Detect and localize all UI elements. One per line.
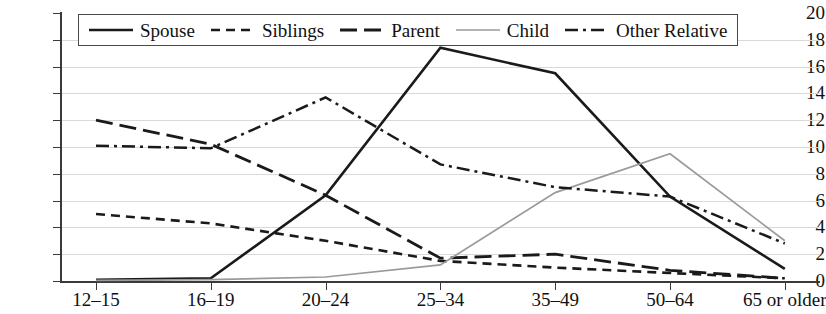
solid-line-swatch-icon: [89, 24, 133, 36]
dotted-line-swatch-icon: [211, 24, 255, 36]
legend-label: Parent: [391, 21, 440, 40]
series-line-child: [96, 154, 785, 281]
x-tick-label: 65 or older: [743, 290, 826, 310]
x-tick-label: 50–64: [646, 290, 694, 310]
dashed-line-swatch-icon: [340, 24, 384, 36]
gridline: [62, 93, 820, 94]
legend-item-other-relative[interactable]: Other Relative: [565, 21, 727, 40]
x-tick-label: 16–19: [187, 290, 235, 310]
legend-label: Child: [507, 21, 549, 40]
light-solid-line-swatch-icon: [456, 24, 500, 36]
legend-item-parent[interactable]: Parent: [340, 21, 440, 40]
x-tick-label: 12–15: [72, 290, 120, 310]
gridline: [62, 120, 820, 121]
gridline: [62, 174, 820, 175]
legend-label: Siblings: [262, 21, 324, 40]
x-tick-label: 35–49: [531, 290, 579, 310]
legend-item-child[interactable]: Child: [456, 21, 549, 40]
legend-label: Spouse: [140, 21, 195, 40]
gridline: [62, 201, 820, 202]
x-tick-label: 20–24: [302, 290, 350, 310]
x-tick-label: 25–34: [417, 290, 465, 310]
chart-legend: SpouseSiblingsParentChildOther Relative: [78, 14, 738, 46]
legend-item-siblings[interactable]: Siblings: [211, 21, 324, 40]
gridline: [62, 254, 820, 255]
y-axis-line: [60, 12, 62, 283]
legend-label: Other Relative: [616, 21, 727, 40]
gridline: [62, 227, 820, 228]
gridline: [62, 67, 820, 68]
y-tick-label: 20: [781, 3, 825, 22]
dash-dot-line-swatch-icon: [565, 24, 609, 36]
series-line-spouse: [96, 48, 785, 280]
legend-item-spouse[interactable]: Spouse: [89, 21, 195, 40]
gridline: [62, 147, 820, 148]
series-line-siblings: [96, 214, 785, 278]
